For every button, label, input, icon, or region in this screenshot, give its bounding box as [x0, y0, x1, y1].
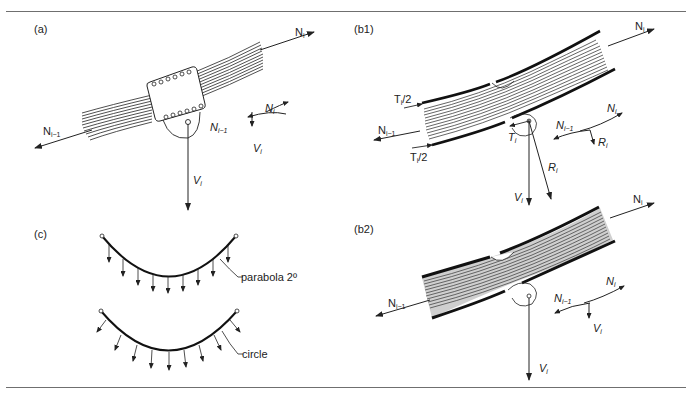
label-v: Vi — [193, 174, 202, 187]
force-r-arrow-b1 — [529, 121, 551, 199]
anchor-block — [147, 67, 205, 138]
panel-b1-label: (b1) — [354, 23, 374, 35]
panel-a-label: (a) — [34, 23, 47, 35]
svg-text:Vi: Vi — [253, 142, 262, 155]
circle-curve: circle — [97, 309, 268, 370]
svg-text:Ni−1: Ni−1 — [210, 121, 228, 134]
label-v-b2: Vi — [539, 362, 548, 375]
figure-canvas: (a) — [0, 0, 692, 398]
svg-text:Ni−1: Ni−1 — [554, 292, 572, 305]
label-t-half-top: Ti/2 — [394, 93, 411, 106]
strand-bundle-left — [82, 95, 152, 140]
label-n: Ni — [295, 26, 305, 39]
force-t-half-bottom-arrow — [412, 145, 432, 148]
svg-text:Ni: Ni — [607, 102, 617, 115]
panel-b2-label: (b2) — [354, 223, 374, 235]
svg-text:Ri: Ri — [598, 136, 608, 149]
svg-text:Ni: Ni — [265, 102, 275, 115]
force-n-arrow — [260, 32, 314, 50]
strand-bundle-right — [195, 42, 263, 99]
panel-c-label: (c) — [34, 228, 47, 240]
panel-b2: (b2) Ni−1 Ni Vi Ni Ni−1 — [354, 193, 654, 380]
svg-text:Ni−1: Ni−1 — [556, 119, 574, 132]
force-inset-b2: Ni Ni−1 Vi — [554, 275, 624, 335]
label-t-half-bottom: Ti/2 — [410, 151, 427, 164]
panel-a: (a) — [34, 23, 314, 210]
force-inset-a: Ni Ni−1 Vi — [210, 102, 288, 155]
label-n-b2: Ni — [633, 193, 643, 206]
svg-text:Vi: Vi — [593, 322, 602, 335]
panel-c: (c) parabola 2º — [34, 228, 297, 370]
label-n-prev: Ni−1 — [43, 125, 61, 138]
duct-top-b1 — [422, 31, 600, 103]
label-r: Ri — [548, 161, 558, 174]
circle-label: circle — [242, 348, 268, 360]
svg-text:Ni: Ni — [606, 275, 616, 288]
duct-fill-b2 — [422, 208, 613, 318]
label-n-b1: Ni — [635, 20, 645, 33]
force-n-arrow-b1 — [608, 29, 654, 46]
parabola-label: parabola 2º — [241, 271, 297, 283]
deviator-saddle-b2 — [508, 283, 537, 306]
force-inset-b1: Ni Ni−1 Ri — [554, 102, 622, 149]
label-n-prev-b1: Ni−1 — [378, 124, 396, 137]
force-t-arrow — [510, 121, 529, 126]
parabola-curve: parabola 2º — [100, 234, 297, 293]
label-v-b1: Vi — [514, 191, 523, 204]
force-n-arrow-b2 — [610, 203, 654, 218]
panel-b1: (b1) Ti/2 Ni−1 Ti/2 Ti Ri Vi — [354, 20, 654, 205]
label-n-prev-b2: Ni−1 — [388, 297, 406, 310]
